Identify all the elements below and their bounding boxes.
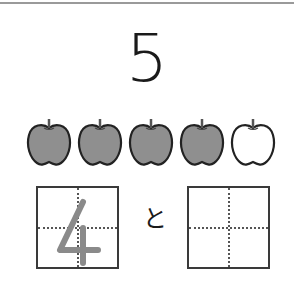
apple-icon-filled — [77, 118, 123, 168]
guide-line-horizontal — [189, 227, 268, 229]
apple-icon-filled — [179, 118, 225, 168]
answer-box-left — [36, 186, 119, 269]
apple-icon-empty — [230, 118, 276, 168]
top-divider — [0, 2, 294, 4]
connector-to: と — [140, 204, 170, 234]
target-number: 5 — [0, 22, 294, 96]
apple-row — [0, 118, 294, 168]
apple-icon-filled — [128, 118, 174, 168]
apple-icon-filled — [26, 118, 72, 168]
traced-digit-four — [38, 188, 117, 267]
answer-box-right[interactable] — [187, 186, 270, 269]
